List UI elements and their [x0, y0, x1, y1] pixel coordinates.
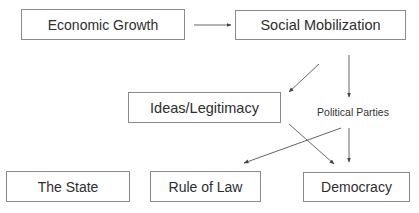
node-social-mobilization: Social Mobilization — [235, 10, 406, 40]
node-ideas-legitimacy: Ideas/Legitimacy — [128, 92, 281, 123]
node-label: Rule of Law — [169, 179, 243, 195]
node-the-state: The State — [6, 171, 130, 202]
node-label: Democracy — [321, 179, 392, 195]
label-political-parties: Political Parties — [317, 106, 389, 118]
node-label: The State — [38, 179, 99, 195]
node-democracy: Democracy — [303, 172, 410, 202]
node-label: Social Mobilization — [260, 17, 380, 33]
edge-social-to-ideas — [289, 64, 319, 92]
node-label: Ideas/Legitimacy — [150, 100, 259, 116]
node-economic-growth: Economic Growth — [21, 9, 185, 40]
node-rule-of-law: Rule of Law — [150, 171, 261, 202]
node-label: Economic Growth — [48, 17, 158, 33]
